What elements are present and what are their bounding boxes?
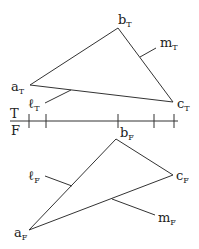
label-c-front: cF	[176, 168, 189, 185]
label-m-front: mF	[158, 210, 176, 227]
line-l-top	[45, 90, 71, 103]
label-c-top: cT	[177, 96, 190, 113]
triangle-front-view	[29, 139, 173, 230]
label-l-front: ℓF	[28, 168, 40, 185]
label-a-front: aF	[14, 225, 28, 242]
label-b-front: bF	[120, 125, 134, 142]
line-m-top	[140, 48, 156, 57]
triangle-top-view	[30, 28, 173, 102]
line-l-front	[45, 176, 72, 186]
projection-diagram: aT bT cT ℓT mT T F aF bF cF ℓF mF	[0, 0, 199, 249]
label-m-top: mT	[160, 35, 178, 52]
axis-label-front: F	[11, 123, 20, 138]
label-l-top: ℓT	[28, 96, 40, 113]
label-a-top: aT	[11, 79, 25, 96]
axis-label-top: T	[10, 106, 19, 121]
label-b-top: bT	[118, 12, 132, 29]
line-m-front	[112, 199, 155, 215]
